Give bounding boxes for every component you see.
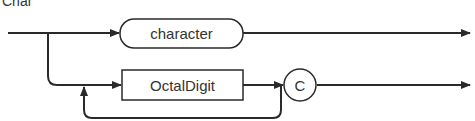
syntax-diagram: character OctalDigit C: [0, 0, 475, 121]
branch-line: [48, 33, 121, 85]
character-label: character: [150, 25, 213, 42]
octaldigit-node: OctalDigit: [122, 70, 243, 100]
octaldigit-label: OctalDigit: [150, 77, 216, 94]
c-node: C: [284, 69, 316, 101]
c-label: C: [295, 77, 306, 94]
character-node: character: [120, 19, 243, 48]
